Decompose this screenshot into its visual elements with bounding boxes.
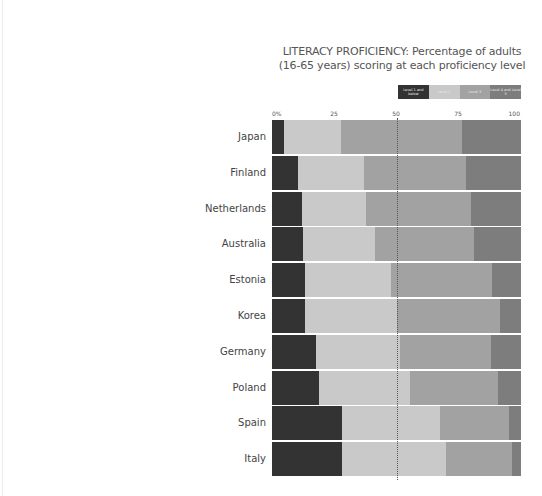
bar-row: Australia [0,227,542,261]
bar-row: Korea [0,299,542,333]
bar-segment [391,263,492,297]
chart-legend: Level 1 and belowLevel 2Level 3Level 4 a… [398,85,521,99]
bar-segment [471,192,521,226]
category-label: Estonia [229,263,266,297]
legend-item: Level 1 and below [398,85,429,99]
bar-row: Germany [0,335,542,369]
x-tick-label: 0% [272,110,282,117]
bar-segment [298,156,364,190]
bar-segment [466,156,521,190]
x-tick-label: 75 [454,110,462,117]
bar-row: Finland [0,156,542,190]
bar-segment [302,192,366,226]
category-label: Italy [244,442,266,476]
bar-segment [491,335,521,369]
bar-segment [272,120,284,154]
bar-segment [342,406,440,440]
bar-segment [509,406,521,440]
bar-row: Estonia [0,263,542,297]
category-label: Poland [233,371,266,405]
bar-segment [512,442,521,476]
chart-title-line-2: (16-65 years) scoring at each proficienc… [262,59,542,73]
legend-item: Level 2 [429,85,460,99]
bar-segment [272,406,342,440]
bar-segment [474,227,521,261]
category-label: Finland [230,156,266,190]
bar-segment [364,156,466,190]
x-tick-label: 100 [509,110,520,117]
bar-segment [342,442,446,476]
bar-segment [375,227,474,261]
bar-segment [492,263,521,297]
legend-item: Level 4 and Level 5 [490,85,521,99]
bar-segment [305,299,398,333]
bar-segment [284,120,341,154]
x-tick-label: 50 [392,110,400,117]
category-label: Netherlands [205,192,266,226]
bar-segment [272,227,303,261]
bar-segment [446,442,512,476]
bar-segment [272,299,305,333]
bar-segment [341,120,462,154]
bar-segment [400,335,491,369]
bar-segment [272,371,319,405]
category-label: Germany [220,335,266,369]
bar-row: Italy [0,442,542,476]
bar-segment [366,192,471,226]
bar-row: Spain [0,406,542,440]
bar-segment [440,406,510,440]
category-label: Korea [238,299,266,333]
fifty-percent-reference-line [397,118,398,480]
x-tick-label: 25 [330,110,338,117]
bar-segment [462,120,521,154]
bar-segment [498,371,521,405]
x-axis: 0%255075100 [272,110,520,120]
bar-segment [397,299,500,333]
legend-item: Level 3 [460,85,491,99]
bar-segment [272,335,316,369]
chart-title-line-1: LITERACY PROFICIENCY: Percentage of adul… [262,45,542,59]
bar-row: Netherlands [0,192,542,226]
category-label: Spain [238,406,266,440]
category-label: Japan [238,120,266,154]
bar-segment [272,156,298,190]
bar-segment [316,335,400,369]
bar-segment [272,442,342,476]
bar-segment [272,263,305,297]
bar-segment [500,299,521,333]
bar-segment [410,371,498,405]
bar-row: Japan [0,120,542,154]
category-label: Australia [222,227,266,261]
bar-segment [305,263,391,297]
bar-segment [303,227,375,261]
bar-segment [272,192,302,226]
chart-title: LITERACY PROFICIENCY: Percentage of adul… [262,45,542,73]
bar-row: Poland [0,371,542,405]
